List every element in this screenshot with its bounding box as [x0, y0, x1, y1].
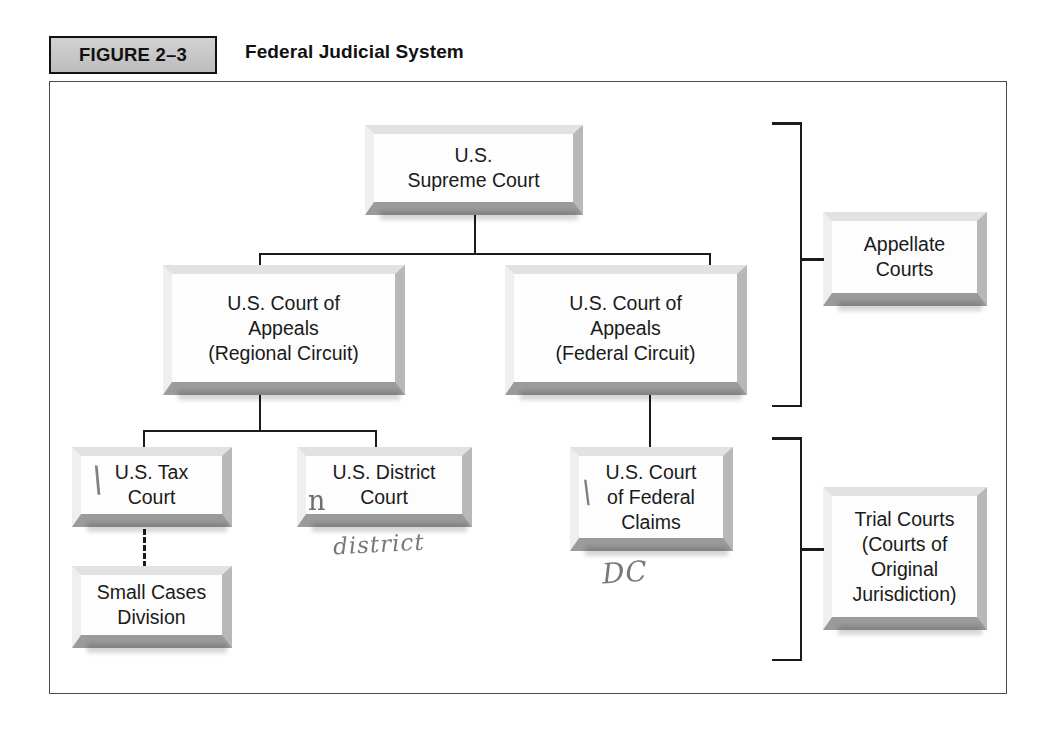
annotation-district-court-pencil-n: n [308, 487, 325, 514]
connector-federal-claims-stem [649, 395, 651, 454]
connector-trial-bar [143, 430, 377, 432]
bracket-trial-tick [802, 548, 824, 551]
bracket-appellate-tick [802, 258, 824, 261]
bracket-appellate [772, 122, 802, 407]
node-supreme-court[interactable]: U.S. Supreme Court [365, 125, 583, 215]
bracket-appellate-bottom [772, 405, 802, 408]
bracket-trial [772, 437, 802, 661]
tier-label-trial-courts[interactable]: Trial Courts (Courts of Original Jurisdi… [823, 487, 987, 630]
bracket-appellate-top [772, 122, 802, 125]
connector-supreme-stem [474, 215, 476, 255]
bracket-appellate-spine [800, 122, 803, 407]
tier-label-trial-courts-label: Trial Courts (Courts of Original Jurisdi… [848, 507, 960, 607]
bracket-trial-bottom [772, 659, 802, 662]
node-district-court-label: U.S. District Court [329, 460, 440, 510]
node-appeals-federal[interactable]: U.S. Court of Appeals (Federal Circuit) [505, 265, 747, 395]
bracket-trial-top [772, 437, 802, 440]
tier-label-appellate-courts[interactable]: Appellate Courts [823, 212, 987, 306]
node-small-cases-division[interactable]: Small Cases Division [72, 566, 232, 648]
connector-appeals-bar [259, 253, 711, 255]
node-federal-claims[interactable]: U.S. Court of Federal Claims [570, 447, 733, 551]
node-tax-court-label: U.S. Tax Court [111, 460, 192, 510]
node-federal-claims-label: U.S. Court of Federal Claims [601, 460, 700, 535]
node-supreme-court-label: U.S. Supreme Court [403, 143, 543, 193]
figure-title: Federal Judicial System [245, 41, 464, 63]
figure-number-tab: FIGURE 2–3 [49, 36, 217, 74]
figure-canvas: FIGURE 2–3 Federal Judicial System U.S. … [0, 0, 1057, 731]
node-appeals-regional-label: U.S. Court of Appeals (Regional Circuit) [204, 291, 363, 366]
tier-label-appellate-courts-label: Appellate Courts [860, 232, 949, 282]
node-small-cases-division-label: Small Cases Division [93, 580, 210, 630]
connector-regional-stem [259, 395, 261, 432]
figure-number-label: FIGURE 2–3 [79, 44, 187, 66]
node-appeals-federal-label: U.S. Court of Appeals (Federal Circuit) [552, 291, 700, 366]
node-appeals-regional[interactable]: U.S. Court of Appeals (Regional Circuit) [163, 265, 405, 395]
